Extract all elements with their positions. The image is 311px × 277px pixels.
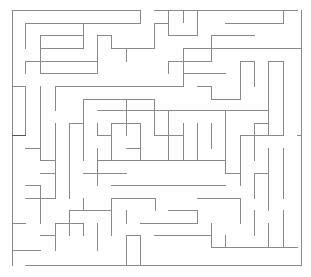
- maze-board: [0, 0, 311, 277]
